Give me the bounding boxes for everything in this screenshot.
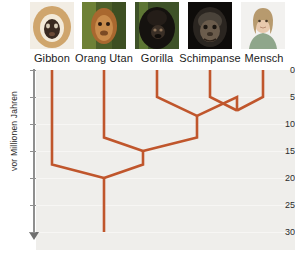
species-label-mensch: Mensch	[236, 52, 292, 64]
y-tick-label-25: 25	[269, 200, 295, 210]
y-axis-arrow	[29, 232, 39, 240]
orang-utan-photo	[82, 2, 126, 49]
y-tick-20	[30, 178, 36, 179]
y-tick-label-15: 15	[269, 146, 295, 156]
y-axis-line	[33, 69, 35, 235]
gridline-15	[36, 151, 295, 152]
gridline-5	[36, 97, 295, 98]
phylogenetic-tree-figure: Gibbon Orang Utan Gorilla Schimpanse Men…	[0, 0, 295, 266]
y-tick-0	[30, 70, 36, 71]
y-axis-title: vor Millionen Jahren	[9, 71, 19, 191]
y-tick-label-30: 30	[269, 227, 295, 237]
species-photo-strip	[0, 0, 295, 50]
gibbon-photo	[30, 2, 74, 49]
y-tick-label-10: 10	[269, 119, 295, 129]
y-tick-5	[30, 97, 36, 98]
gridline-30	[36, 232, 295, 233]
gridline-20	[36, 178, 295, 179]
plot-area	[36, 70, 295, 250]
y-tick-label-0: 0	[269, 65, 295, 75]
y-tick-label-20: 20	[269, 173, 295, 183]
human-photo	[241, 2, 285, 49]
gridline-25	[36, 205, 295, 206]
chimpanzee-photo	[188, 2, 232, 49]
y-tick-label-5: 5	[269, 92, 295, 102]
gorilla-photo	[135, 2, 179, 49]
y-tick-15	[30, 151, 36, 152]
y-tick-25	[30, 205, 36, 206]
y-tick-10	[30, 124, 36, 125]
y-tick-30	[30, 232, 36, 233]
gridline-10	[36, 124, 295, 125]
